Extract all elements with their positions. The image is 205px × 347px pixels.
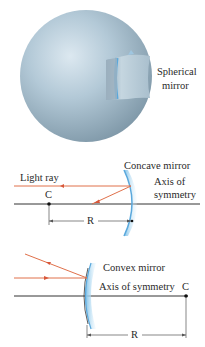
axis-label-2: symmetry — [154, 189, 196, 201]
radius-label: R — [131, 329, 138, 341]
spherical-mirror-label-2: mirror — [162, 80, 189, 92]
axis-label-1: Axis of — [154, 176, 185, 188]
center-label: C — [45, 189, 52, 201]
spherical-mirror-label-1: Spherical — [157, 66, 197, 78]
center-label: C — [182, 281, 189, 293]
concave-mirror — [124, 170, 137, 236]
radius-label: R — [87, 215, 94, 227]
axis-label: Axis of symmetry — [99, 281, 175, 293]
concave-mirror-label: Concave mirror — [124, 160, 190, 172]
sphere-illustration — [20, 10, 152, 142]
reflected-ray — [25, 254, 87, 278]
convex-mirror-label: Convex mirror — [103, 262, 165, 274]
light-ray-label: Light ray — [20, 172, 59, 184]
